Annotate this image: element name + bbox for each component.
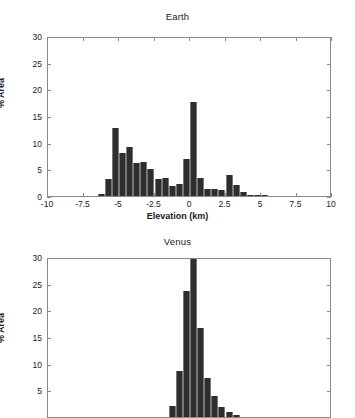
histogram-bar [133,163,140,196]
y-tick-label: 5 [0,165,42,175]
histogram-bar [140,162,147,196]
x-tick-mark [154,193,155,197]
histogram-bar [233,415,240,417]
y-tick-label: 20 [0,306,42,316]
earth-axis-label-y: % Area [0,78,6,108]
histogram-bar [204,378,211,417]
x-tick-mark [296,37,297,41]
x-tick-label: -2.5 [146,199,161,209]
histogram-bar [176,184,183,196]
histogram-bar [247,195,254,196]
histogram-bar [126,147,133,196]
x-tick-mark [225,193,226,197]
histogram-bar [119,153,126,196]
x-tick-mark [154,37,155,41]
y-tick-mark [47,144,51,145]
y-tick-label: 0 [0,192,42,202]
y-tick-label: 25 [0,59,42,69]
x-tick-label: 10 [326,199,335,209]
histogram-bar [226,175,233,196]
y-tick-label: 5 [0,386,42,396]
earth-title: Earth [0,11,355,22]
y-tick-mark [327,311,331,312]
histogram-bar [226,412,233,417]
x-tick-label: -7.5 [75,199,90,209]
y-tick-mark [47,170,51,171]
histogram-bar [204,189,211,196]
histogram-bar [218,407,225,417]
y-tick-mark [47,338,51,339]
histogram-bar [183,159,190,196]
y-tick-mark [47,311,51,312]
histogram-bar [261,195,268,196]
histogram-bar [169,406,176,417]
histogram-bar [197,178,204,196]
y-tick-mark [47,90,51,91]
x-tick-mark [47,37,48,41]
earth-plot-area [47,37,331,197]
x-tick-label: -10 [41,199,53,209]
histogram-bar [190,102,197,196]
histogram-bar [190,259,197,417]
y-tick-mark [327,117,331,118]
x-tick-label: -5 [114,199,122,209]
histogram-bar [197,328,204,417]
histogram-bar [105,179,112,196]
x-tick-mark [331,193,332,197]
x-tick-mark [225,37,226,41]
y-tick-label: 25 [0,280,42,290]
histogram-bar [147,169,154,196]
histogram-bar [240,192,247,196]
y-tick-mark [327,170,331,171]
y-tick-mark [47,285,51,286]
histogram-bar [162,178,169,196]
y-tick-label: 10 [0,360,42,370]
earth-bars [48,38,330,196]
histogram-bar [176,371,183,417]
y-tick-mark [327,391,331,392]
x-tick-mark [83,193,84,197]
venus-axis-label-y: % Area [0,313,6,343]
y-tick-mark [327,64,331,65]
y-tick-mark [47,197,51,198]
venus-plot-area [47,258,331,418]
x-tick-label: 7.5 [290,199,302,209]
y-tick-mark [327,258,331,259]
y-tick-mark [327,285,331,286]
histogram-bar [233,185,240,196]
y-tick-mark [327,338,331,339]
y-tick-label: 20 [0,85,42,95]
y-tick-mark [327,90,331,91]
histogram-bar [98,194,105,196]
venus-bars [48,259,330,417]
y-tick-mark [327,197,331,198]
x-tick-mark [189,193,190,197]
y-tick-mark [47,117,51,118]
histogram-bar [211,396,218,417]
earth-axis-label-x: Elevation (km) [0,211,355,221]
y-tick-mark [327,365,331,366]
x-tick-mark [260,193,261,197]
histogram-bar [112,128,119,196]
y-tick-mark [47,64,51,65]
x-tick-mark [189,37,190,41]
venus-title: Venus [0,236,355,247]
y-tick-label: 10 [0,139,42,149]
venus-panel: Venus 51015202530 % Area [0,225,355,411]
x-tick-mark [296,193,297,197]
x-tick-label: 2.5 [219,199,231,209]
x-tick-mark [118,193,119,197]
x-tick-mark [260,37,261,41]
histogram-bar [211,189,218,196]
histogram-bar [169,186,176,196]
y-tick-label: 15 [0,333,42,343]
x-tick-mark [118,37,119,41]
y-tick-mark [47,391,51,392]
y-tick-label: 30 [0,253,42,263]
y-tick-mark [327,144,331,145]
x-tick-mark [47,193,48,197]
y-tick-label: 15 [0,112,42,122]
y-tick-label: 30 [0,32,42,42]
histogram-bar [155,179,162,196]
